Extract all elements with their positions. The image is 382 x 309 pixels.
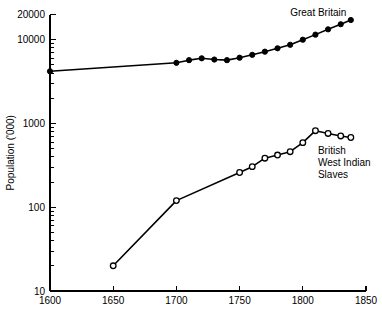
data-point xyxy=(300,140,306,146)
series-line-great-britain xyxy=(50,20,351,71)
x-tick-label: 1850 xyxy=(355,295,378,306)
x-tick-label: 1600 xyxy=(39,295,62,306)
data-point xyxy=(348,17,353,22)
series-label-british-west-indian-slaves: BritishWest IndianSlaves xyxy=(318,145,371,180)
data-point xyxy=(262,155,268,161)
data-point xyxy=(325,27,330,32)
data-point xyxy=(237,55,242,60)
data-point xyxy=(199,56,204,61)
data-point xyxy=(110,263,116,269)
series-label-great-britain: Great Britain xyxy=(290,7,346,18)
series-annotations: Great BritainBritishWest IndianSlaves xyxy=(290,7,370,180)
data-point xyxy=(249,164,255,170)
data-point xyxy=(288,42,293,47)
y-tick-label: 10000 xyxy=(17,34,45,45)
data-point xyxy=(313,32,318,37)
data-point xyxy=(313,128,319,134)
data-point xyxy=(212,57,217,62)
x-axis-major-ticks xyxy=(50,286,366,291)
data-point xyxy=(348,135,354,141)
y-axis-title: Population ('000) xyxy=(5,115,16,190)
y-tick-label: 20000 xyxy=(17,9,45,20)
data-point xyxy=(47,69,52,74)
series-markers xyxy=(47,17,353,268)
population-line-chart: 1010010001000020000 16001650170017501800… xyxy=(0,0,382,309)
data-point xyxy=(300,37,305,42)
y-tick-label: 1000 xyxy=(23,118,46,129)
data-point xyxy=(186,58,191,63)
y-tick-label: 100 xyxy=(28,202,45,213)
data-point xyxy=(237,170,243,176)
data-point xyxy=(174,60,179,65)
data-point xyxy=(262,49,267,54)
x-tick-label: 1800 xyxy=(292,295,315,306)
data-point xyxy=(275,152,281,158)
y-axis-tick-labels: 1010010001000020000 xyxy=(17,9,45,297)
data-point xyxy=(338,133,344,139)
data-point xyxy=(224,58,229,63)
data-point xyxy=(287,149,293,155)
x-tick-label: 1750 xyxy=(228,295,251,306)
x-tick-label: 1650 xyxy=(102,295,125,306)
data-point xyxy=(338,22,343,27)
data-point xyxy=(325,131,331,137)
series-line-british-west-indian-slaves xyxy=(113,131,351,266)
data-point xyxy=(275,46,280,51)
x-axis-tick-labels: 160016501700175018001850 xyxy=(39,295,378,306)
y-axis-title-text: Population ('000) xyxy=(5,115,16,190)
x-tick-label: 1700 xyxy=(165,295,188,306)
chart-figure: 1010010001000020000 16001650170017501800… xyxy=(0,0,382,309)
data-point xyxy=(174,198,180,204)
y-axis-major-ticks xyxy=(50,15,56,292)
data-point xyxy=(250,52,255,57)
